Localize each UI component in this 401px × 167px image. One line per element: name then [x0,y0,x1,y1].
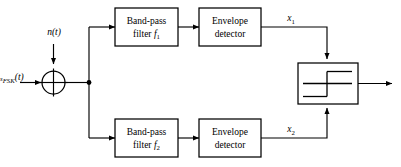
input-signal-label-sub: FSK [3,77,15,84]
noise-input-label: n(t) [39,27,69,37]
input-signal-label-arg: (t) [15,72,24,82]
x2-signal-label: x2 [286,124,295,136]
envdet2-label-line2: detector [215,140,246,150]
input-signal-label: sFSK(t) [0,72,44,85]
band-pass-filter-1-block: Band-pass filter f1 [115,8,178,46]
envdet1-label-line1: Envelope [212,16,248,26]
diagram-canvas: Band-pass filter f1 Envelope detector x1 [0,0,401,167]
bpf2-label-line2: filter f2 [133,140,160,152]
decision-device-block [298,63,358,104]
band-pass-filter-2-block: Band-pass filter f2 [115,119,178,157]
adder-output-wire [65,80,91,85]
x2-sub: 2 [291,129,295,136]
envdet2-label-line1: Envelope [212,127,248,137]
bpf2-label-line1: Band-pass [127,127,167,137]
bpf1-label-line1: Band-pass [127,16,167,26]
bpf1-label-line2: filter f1 [133,29,160,41]
bpf1-label-sub: 1 [157,33,160,40]
bpf2-label-sub: 2 [157,144,161,151]
svg-text:x2: x2 [286,124,295,136]
envelope-detector-1-block: Envelope detector [199,8,261,46]
bpf2-label-prefix: filter [133,140,154,150]
fsk-receiver-diagram: Band-pass filter f1 Envelope detector x1 [0,0,401,167]
bpf1-label-prefix: filter [133,29,154,39]
envdet1-label-line2: detector [215,29,246,39]
envelope-detector-2-block: Envelope detector [199,119,261,157]
x1-sub: 1 [291,18,294,25]
svg-text:x1: x1 [286,13,295,25]
upper-detector-output-wire [261,27,327,59]
x1-signal-label: x1 [286,13,295,25]
